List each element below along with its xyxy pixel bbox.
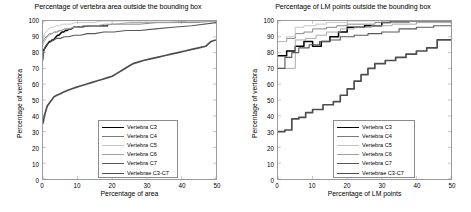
legend-color-swatch (102, 154, 124, 155)
legend-color-swatch (102, 136, 124, 137)
legend-lm: Vertebra C3Vertebra C4Vertebra C5Vertebr… (333, 120, 415, 178)
series-line (43, 26, 108, 51)
x-tick-label: 40 (178, 182, 185, 189)
legend-area: Vertebra C3Vertebra C4Vertebra C5Vertebr… (98, 120, 178, 178)
legend-color-swatch (337, 163, 359, 164)
legend-color-swatch (337, 136, 359, 137)
y-axis-label-area: Percentage of vertebra (16, 39, 23, 169)
legend-color-swatch (337, 154, 359, 155)
y-axis-label-lm: Percentage of vertebra (251, 39, 258, 169)
y-tick-label: 100 (28, 17, 39, 24)
legend-item[interactable]: Vertebra C7 (337, 159, 411, 168)
legend-item[interactable]: Vertebra C6 (337, 150, 411, 159)
legend-color-swatch (337, 145, 359, 146)
legend-color-swatch (102, 145, 124, 146)
y-tick-label: 70 (32, 65, 39, 72)
figure-two-panel-cdf-plots: Percentage of vertebra area outside the … (0, 0, 471, 212)
series-line (278, 40, 451, 132)
legend-color-swatch (102, 173, 124, 174)
y-tick-label: 90 (32, 33, 39, 40)
x-tick-label: 50 (213, 182, 220, 189)
x-tick-label: 30 (143, 182, 150, 189)
legend-item[interactable]: Vertebra C6 (102, 150, 174, 159)
x-tick-label: 10 (73, 182, 80, 189)
y-tick-label: 60 (267, 81, 274, 88)
y-tick-label: 20 (267, 145, 274, 152)
legend-item[interactable]: Vertebra C5 (337, 141, 411, 150)
legend-item[interactable]: Vertebra C3 (337, 123, 411, 132)
x-tick-label: 30 (378, 182, 385, 189)
y-tick-label: 30 (267, 129, 274, 136)
legend-item[interactable]: Vertebrae C3-C7 (102, 168, 174, 177)
legend-item-label: Vertebra C4 (362, 132, 392, 141)
legend-item[interactable]: Vertebra C4 (337, 132, 411, 141)
legend-item[interactable]: Vertebrae C3-C7 (337, 168, 411, 177)
chart-panel-area: Percentage of vertebra area outside the … (0, 0, 236, 212)
x-axis-label-lm: Percentage of LM points (277, 190, 452, 197)
chart-panel-lm: Percentage of LM points outside the boun… (235, 0, 471, 212)
legend-item-label: Vertebra C7 (362, 159, 392, 168)
legend-item-label: Vertebra C7 (127, 159, 157, 168)
x-axis-label-area: Percentage of area (42, 190, 217, 197)
legend-color-swatch (337, 127, 359, 128)
y-tick-label: 30 (32, 129, 39, 136)
legend-item-label: Vertebrae C3-C7 (127, 169, 169, 178)
legend-item-label: Vertebra C4 (127, 132, 157, 141)
y-tick-label: 40 (32, 113, 39, 120)
y-tick-label: 10 (32, 161, 39, 168)
x-tick-label: 20 (343, 182, 350, 189)
y-tick-label: 80 (267, 49, 274, 56)
chart-title-lm: Percentage of LM points outside the boun… (235, 3, 471, 11)
legend-item-label: Vertebra C3 (127, 123, 157, 132)
series-line (43, 40, 216, 124)
legend-item-label: Vertebra C5 (127, 141, 157, 150)
y-tick-label: 0 (270, 177, 274, 184)
x-tick-label: 50 (448, 182, 455, 189)
legend-color-swatch (102, 163, 124, 164)
legend-item-label: Vertebra C5 (362, 141, 392, 150)
legend-item-label: Vertebra C6 (127, 150, 157, 159)
y-tick-label: 100 (263, 17, 274, 24)
legend-item-label: Vertebra C3 (362, 123, 392, 132)
y-tick-label: 90 (267, 33, 274, 40)
y-tick-label: 20 (32, 145, 39, 152)
x-tick-label: 20 (108, 182, 115, 189)
y-tick-label: 10 (267, 161, 274, 168)
legend-color-swatch (337, 173, 359, 174)
y-tick-label: 50 (267, 97, 274, 104)
x-tick-label: 0 (40, 182, 44, 189)
x-tick-label: 40 (413, 182, 420, 189)
legend-item-label: Vertebra C6 (362, 150, 392, 159)
legend-item[interactable]: Vertebra C4 (102, 132, 174, 141)
legend-item[interactable]: Vertebra C5 (102, 141, 174, 150)
y-tick-label: 40 (267, 113, 274, 120)
legend-color-swatch (102, 127, 124, 128)
y-tick-label: 80 (32, 49, 39, 56)
x-tick-label: 10 (308, 182, 315, 189)
legend-item[interactable]: Vertebra C3 (102, 123, 174, 132)
legend-item[interactable]: Vertebra C7 (102, 159, 174, 168)
y-tick-label: 70 (267, 65, 274, 72)
y-tick-label: 0 (35, 177, 39, 184)
y-tick-label: 60 (32, 81, 39, 88)
x-tick-label: 0 (275, 182, 279, 189)
series-line (278, 21, 451, 42)
legend-item-label: Vertebrae C3-C7 (362, 169, 404, 178)
chart-title-area: Percentage of vertebra area outside the … (0, 3, 236, 11)
y-tick-label: 50 (32, 97, 39, 104)
